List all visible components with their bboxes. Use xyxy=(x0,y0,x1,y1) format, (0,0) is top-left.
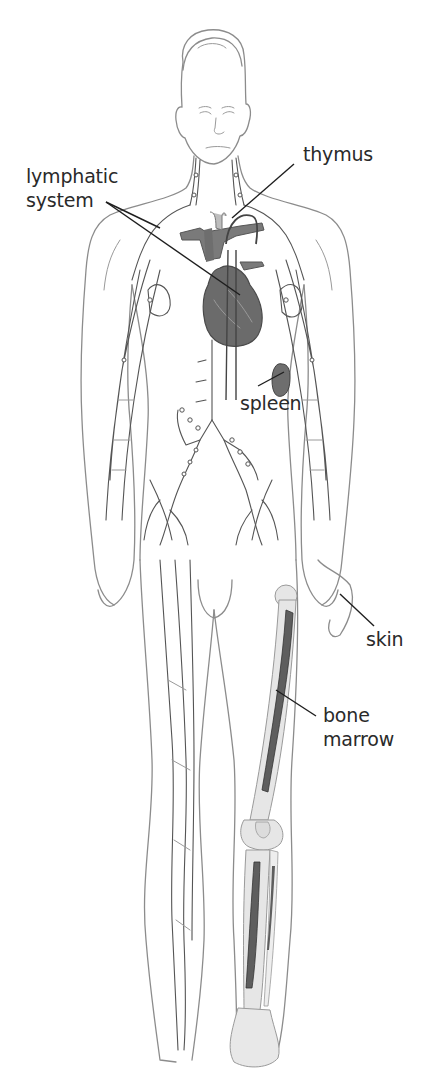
label-thymus: thymus xyxy=(303,142,373,166)
heart-icon xyxy=(180,212,264,346)
leader-lines xyxy=(106,164,374,716)
label-lymphatic-system-line1: lymphatic xyxy=(26,164,118,188)
leader-lymphatic-1 xyxy=(106,202,160,228)
leader-skin xyxy=(340,594,374,626)
bone-marrow-icon xyxy=(230,585,297,1067)
label-spleen: spleen xyxy=(240,391,301,415)
body-outline-icon xyxy=(81,30,355,1062)
label-bone-marrow-line2: marrow xyxy=(323,727,394,751)
label-lymphatic-system-line2: system xyxy=(26,188,94,212)
label-skin: skin xyxy=(366,627,403,651)
anatomy-diagram: lymphatic system thymus spleen skin bone… xyxy=(0,0,429,1079)
label-bone-marrow-line1: bone xyxy=(323,703,370,727)
